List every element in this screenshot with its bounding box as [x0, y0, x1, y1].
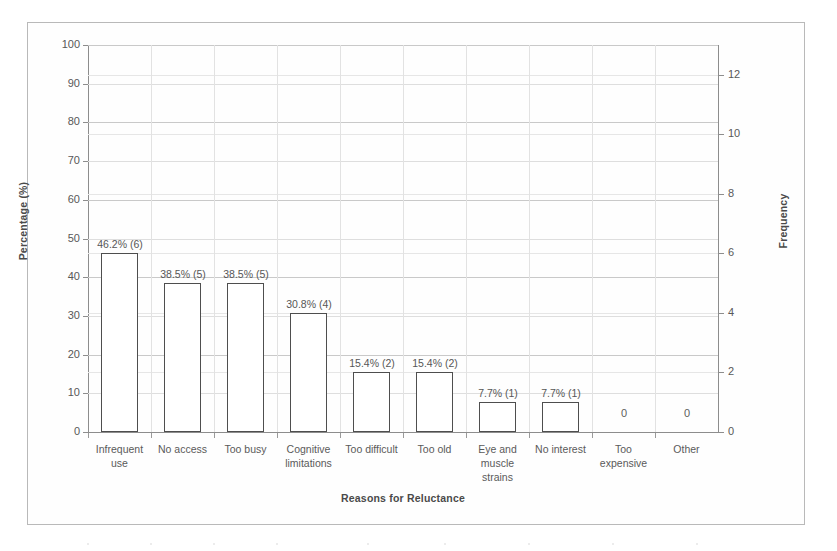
y-tick-left-40: [83, 277, 88, 278]
y-tick-label-left-80: 80: [52, 116, 80, 127]
x-tick-9: [655, 433, 656, 438]
y-tick-left-70: [83, 161, 88, 162]
bar-chart: Percentage (%) Frequency Reasons for Rel…: [0, 0, 837, 551]
x-tick-3: [277, 433, 278, 438]
y-tick-label-right-8: 8: [728, 188, 756, 199]
y-tick-label-left-70: 70: [52, 155, 80, 166]
y-axis-title-right: Frequency: [777, 151, 789, 291]
y-tick-label-left-90: 90: [52, 78, 80, 89]
bar-value-label-0: 46.2% (6): [70, 238, 170, 250]
gridline-x-5: [403, 45, 404, 432]
bar-value-label-5: 15.4% (2): [385, 357, 485, 369]
x-tick-7: [529, 433, 530, 438]
gridline-x-6: [466, 45, 467, 432]
x-category-label-9: Other: [649, 442, 724, 456]
y-tick-right-2: [719, 372, 724, 373]
gridline-x-4: [340, 45, 341, 432]
scan-artifact: [60, 541, 760, 547]
bar-4[interactable]: [353, 372, 390, 432]
y-tick-left-20: [83, 355, 88, 356]
gridline-x-2: [214, 45, 215, 432]
bar-1[interactable]: [164, 283, 201, 432]
y-tick-label-right-4: 4: [728, 307, 756, 318]
y-tick-left-30: [83, 316, 88, 317]
bar-value-label-2: 38.5% (5): [196, 268, 296, 280]
bar-6[interactable]: [479, 402, 516, 432]
bar-5[interactable]: [416, 372, 453, 432]
y-tick-right-8: [719, 194, 724, 195]
y-tick-right-0: [719, 432, 724, 433]
y-tick-right-6: [719, 253, 724, 254]
y-tick-label-left-60: 60: [52, 194, 80, 205]
x-tick-5: [403, 433, 404, 438]
y-tick-left-100: [83, 45, 88, 46]
y-tick-label-left-100: 100: [52, 39, 80, 50]
gridline-x-3: [277, 45, 278, 432]
y-tick-right-10: [719, 134, 724, 135]
y-tick-left-90: [83, 84, 88, 85]
x-axis-title: Reasons for Reluctance: [88, 492, 718, 504]
y-tick-label-right-0: 0: [728, 426, 756, 437]
y-tick-label-left-40: 40: [52, 271, 80, 282]
x-tick-2: [214, 433, 215, 438]
y-axis-title-left: Percentage (%): [17, 151, 29, 291]
y-tick-left-80: [83, 122, 88, 123]
y-tick-left-10: [83, 393, 88, 394]
gridline-x-7: [529, 45, 530, 432]
y-tick-label-right-2: 2: [728, 366, 756, 377]
y-tick-label-right-6: 6: [728, 247, 756, 258]
y-tick-label-left-0: 0: [52, 426, 80, 437]
x-tick-4: [340, 433, 341, 438]
y-tick-left-60: [83, 200, 88, 201]
gridline-x-9: [655, 45, 656, 432]
y-tick-label-right-12: 12: [728, 69, 756, 80]
y-tick-right-4: [719, 313, 724, 314]
y-tick-label-right-10: 10: [728, 128, 756, 139]
x-tick-1: [151, 433, 152, 438]
bar-value-label-3: 30.8% (4): [259, 298, 359, 310]
y-tick-label-left-10: 10: [52, 387, 80, 398]
y-tick-label-left-20: 20: [52, 349, 80, 360]
plot-area: [88, 45, 718, 432]
bar-value-label-9: 0: [637, 407, 737, 419]
x-tick-8: [592, 433, 593, 438]
y-tick-label-left-30: 30: [52, 310, 80, 321]
x-tick-6: [466, 433, 467, 438]
x-tick-0: [88, 433, 89, 438]
bar-value-label-7: 7.7% (1): [511, 387, 611, 399]
gridline-x-8: [592, 45, 593, 432]
y-tick-right-12: [719, 75, 724, 76]
y-axis-line-right: [718, 45, 719, 433]
bar-3[interactable]: [290, 313, 327, 432]
